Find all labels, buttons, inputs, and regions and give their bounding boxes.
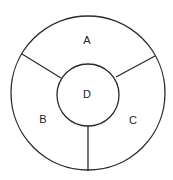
region-diagram: A B C D (0, 0, 173, 180)
region-label-b: B (39, 113, 46, 125)
divider-a-b (22, 54, 61, 78)
region-label-a: A (83, 34, 91, 46)
region-label-c: C (129, 114, 137, 126)
divider-a-c (116, 56, 155, 77)
region-label-d: D (83, 88, 91, 100)
